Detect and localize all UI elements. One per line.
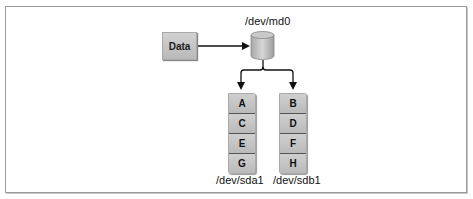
- block-f: F: [280, 134, 306, 154]
- block-e: E: [229, 134, 255, 154]
- block-g: G: [229, 154, 255, 173]
- sdb1-label: /dev/sdb1: [273, 174, 321, 186]
- block-d: D: [280, 114, 306, 134]
- block-b: B: [280, 94, 306, 114]
- disk-sdb1: B D F H: [279, 93, 307, 174]
- data-source-label: Data: [169, 41, 191, 52]
- block-h: H: [280, 154, 306, 173]
- disk-sda1: A C E G: [228, 93, 256, 174]
- md0-label: /dev/md0: [245, 15, 290, 27]
- data-source-box: Data: [162, 32, 197, 60]
- arrow-data-to-md0: [197, 42, 250, 50]
- block-c: C: [229, 114, 255, 134]
- sda1-label: /dev/sda1: [216, 174, 264, 186]
- md0-cylinder-icon: [251, 32, 274, 60]
- arrow-md0-to-disks: [237, 60, 297, 90]
- block-a: A: [229, 94, 255, 114]
